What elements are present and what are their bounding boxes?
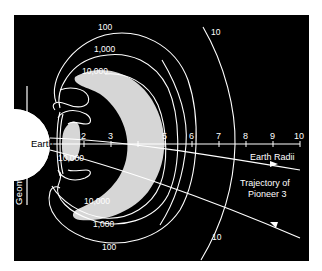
tick-label-10: 10 [294, 131, 304, 141]
contour-label-top-1000: 1,000 [94, 44, 116, 54]
tick-label-4: 4 [135, 131, 140, 141]
contour-label-outer-10-bottom: 10 [212, 232, 222, 242]
tick-label-9: 9 [270, 131, 275, 141]
tick-label-6: 6 [189, 131, 194, 141]
trajectory-label-line1: Trajectory of [240, 178, 290, 188]
tick-label-7: 7 [216, 131, 221, 141]
trajectory-label-line2: Pioneer 3 [248, 189, 287, 199]
tick-label-2: 2 [81, 131, 86, 141]
geomagnetic-axis-label: Geomagnetic Axis [13, 124, 24, 205]
contour-label-outer-10-top: 10 [211, 27, 221, 37]
contour-label-top-100: 100 [98, 22, 112, 32]
radiation-belt-diagram: 2 3 4 5 6 7 8 9 10 Earth Geomagnetic Axi… [0, 0, 322, 271]
contour-label-bottom-10000: 10,000 [84, 196, 110, 206]
contour-label-bottom-100: 100 [102, 242, 116, 252]
contour-label-bottom-1000: 1,000 [93, 219, 115, 229]
contour-label-top-10000: 10,000 [82, 66, 108, 76]
tick-label-8: 8 [243, 131, 248, 141]
tick-label-3: 3 [108, 131, 113, 141]
earth-label: Earth [31, 138, 54, 149]
tick-label-5: 5 [162, 131, 167, 141]
contour-label-inner-10000: 10,000 [58, 153, 84, 163]
earth-radii-label: Earth Radii [250, 152, 295, 162]
